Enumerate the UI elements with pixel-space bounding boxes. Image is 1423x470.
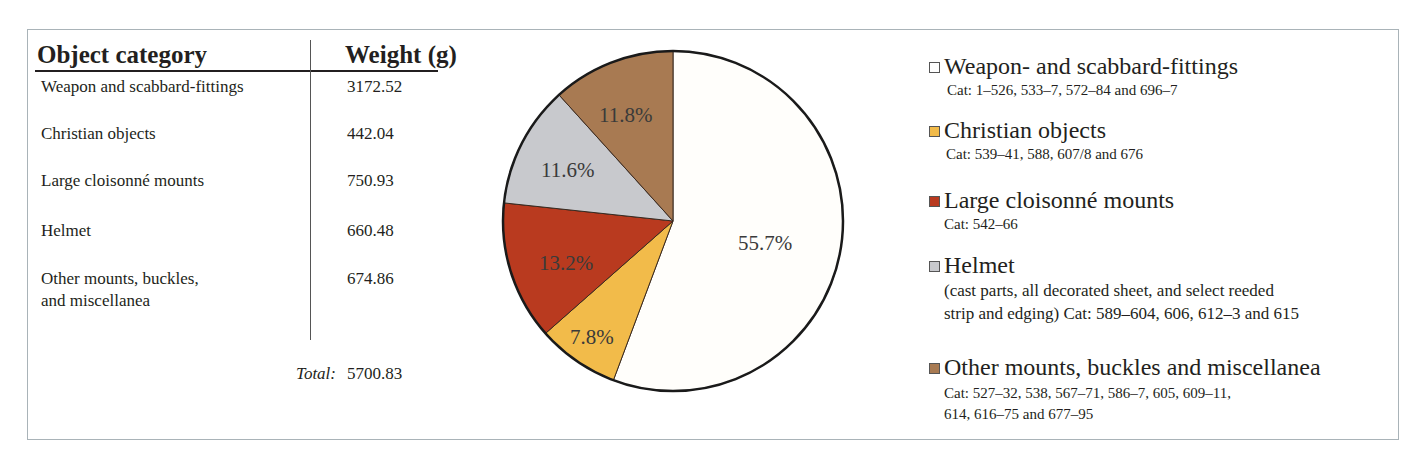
legend-sub: Cat: 1–526, 533–7, 572–84 and 696–7 [929,80,1238,101]
legend-sub: (cast parts, all decorated sheet, and se… [929,279,1299,325]
legend-sub: Cat: 539–41, 588, 607/8 and 676 [929,144,1143,165]
label-helmet: 11.6% [541,158,594,182]
legend-sub-line2: 614, 616–75 and 677–95 [944,406,1093,422]
legend-title: Large cloisonné mounts [944,187,1174,213]
legend-title: Other mounts, buckles and miscellanea [944,354,1321,380]
legend-item-cloisonne: Large cloisonné mounts Cat: 542–66 [929,186,1174,235]
legend-sub-line2: strip and edging) Cat: 589–604, 606, 612… [944,304,1299,323]
legend-item-helmet: Helmet (cast parts, all decorated sheet,… [929,251,1299,325]
legend-sub: Cat: 527–32, 538, 567–71, 586–7, 605, 60… [929,383,1321,425]
legend-item-other: Other mounts, buckles and miscellanea Ca… [929,353,1321,425]
legend-item-weapon: Weapon- and scabbard-fittings Cat: 1–526… [929,52,1238,101]
swatch-icon [929,363,940,374]
label-other: 11.8% [599,103,652,127]
legend-sub-line1: Cat: 527–32, 538, 567–71, 586–7, 605, 60… [944,385,1231,401]
legend-sub-line1: (cast parts, all decorated sheet, and se… [944,281,1274,300]
label-weapon: 55.7% [738,231,792,255]
label-cloisonne: 13.2% [539,251,593,275]
legend-title: Helmet [944,252,1015,278]
legend-item-christian: Christian objects Cat: 539–41, 588, 607/… [929,116,1143,165]
legend-title: Christian objects [944,117,1106,143]
swatch-icon [929,62,940,73]
legend-title: Weapon- and scabbard-fittings [944,53,1238,79]
swatch-icon [929,126,940,137]
label-christian: 7.8% [570,325,614,349]
swatch-icon [929,261,940,272]
swatch-icon [929,196,940,207]
legend-sub: Cat: 542–66 [929,214,1174,235]
